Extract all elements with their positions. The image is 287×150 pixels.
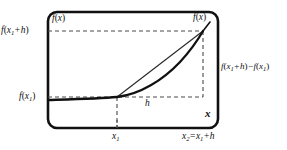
difference-quotient-figure: f(x1+h) f(x1) f(x) f(x) f(x1+h)−f(x1) h … [0, 0, 287, 150]
plot-frame [48, 12, 218, 128]
label-f-x1-plus-h: f(x1+h) [1, 26, 29, 36]
figure-canvas [0, 0, 287, 150]
label-x2-tick: x2=x1+h [182, 132, 215, 142]
label-f-of-x-top-left: f(x) [52, 14, 65, 24]
label-h-run: h [145, 99, 150, 109]
label-x-axis: x [205, 108, 211, 119]
label-difference-quotient-numerator: f(x1+h)−f(x1) [221, 62, 269, 71]
function-curve [48, 31, 203, 100]
secant-line [117, 31, 203, 97]
label-f-of-x-top-right: f(x) [193, 13, 206, 23]
label-x1-tick: x1 [112, 132, 120, 142]
label-f-x1: f(x1) [19, 92, 36, 102]
curve-tip-leader [203, 22, 210, 31]
